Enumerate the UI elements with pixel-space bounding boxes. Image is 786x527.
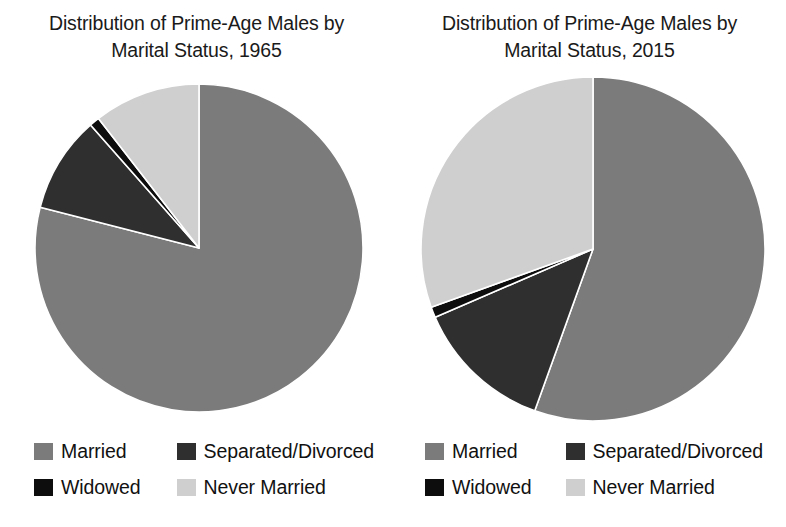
legend-item-widowed[interactable]: Widowed (34, 469, 141, 505)
pie-chart-1965 (0, 0, 393, 440)
chart-panel-2015: Distribution of Prime-Age Males by Marit… (393, 0, 786, 527)
legend-swatch-separated-divorced (566, 443, 585, 460)
figure-root: Distribution of Prime-Age Males by Marit… (0, 0, 786, 527)
legend-label-separated-divorced: Separated/Divorced (593, 440, 764, 462)
pie-svg-2015 (393, 0, 786, 440)
legend-item-married[interactable]: Married (425, 433, 532, 469)
legend-item-widowed[interactable]: Widowed (425, 469, 532, 505)
legend-1965: Married Separated/Divorced Widowed Never… (0, 433, 393, 505)
legend-swatch-widowed (425, 479, 444, 496)
legend-item-separated-divorced[interactable]: Separated/Divorced (177, 433, 375, 469)
legend-item-never-married[interactable]: Never Married (566, 469, 764, 505)
legend-label-widowed: Widowed (452, 476, 532, 498)
pie-svg-1965 (0, 0, 393, 440)
chart-panel-1965: Distribution of Prime-Age Males by Marit… (0, 0, 393, 527)
legend-swatch-never-married (566, 479, 585, 496)
pie-slice-group-2015 (421, 77, 765, 421)
legend-swatch-married (34, 443, 53, 460)
legend-swatch-separated-divorced (177, 443, 196, 460)
legend-item-never-married[interactable]: Never Married (177, 469, 375, 505)
pie-slice-group-1965 (35, 84, 363, 412)
legend-2015: Married Separated/Divorced Widowed Never… (393, 433, 786, 505)
legend-swatch-never-married (177, 479, 196, 496)
pie-chart-2015 (393, 0, 786, 440)
legend-label-separated-divorced: Separated/Divorced (204, 440, 375, 462)
legend-item-married[interactable]: Married (34, 433, 141, 469)
legend-label-widowed: Widowed (61, 476, 141, 498)
legend-label-married: Married (452, 440, 517, 462)
legend-label-never-married: Never Married (593, 476, 715, 498)
legend-label-never-married: Never Married (204, 476, 326, 498)
legend-label-married: Married (61, 440, 126, 462)
legend-item-separated-divorced[interactable]: Separated/Divorced (566, 433, 764, 469)
legend-swatch-widowed (34, 479, 53, 496)
legend-swatch-married (425, 443, 444, 460)
